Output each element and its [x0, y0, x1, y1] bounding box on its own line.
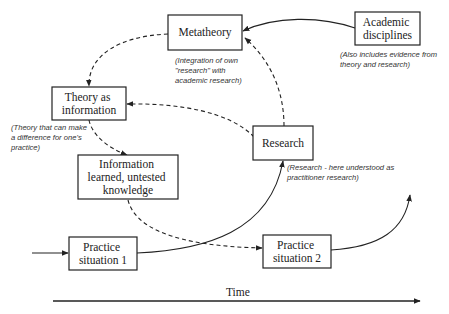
metatheory-label: Metatheory: [178, 26, 231, 39]
edge-metatheory-to-theory: [89, 34, 168, 86]
practice-situation-1-label: Practice situation 1: [79, 241, 127, 266]
practice-situation-1-box: Practice situation 1: [69, 237, 137, 270]
practice-situation-2-box: Practice situation 2: [263, 235, 331, 268]
edge-academic-to-metatheory: [243, 19, 355, 31]
academic-disciplines-note: (Also includes evidence from theory and …: [340, 50, 439, 69]
metatheory-box: Metatheory: [168, 15, 242, 50]
metatheory-note: (Integration of own "research" with acad…: [175, 56, 242, 85]
theory-as-information-label: Theory as information: [62, 91, 117, 116]
time-axis-label: Time: [226, 286, 250, 298]
edge-research-to-theory: [127, 104, 254, 137]
edge-practice2-to-continuation: [331, 195, 410, 250]
research-box: Research: [253, 126, 313, 160]
research-label: Research: [262, 137, 304, 149]
academic-disciplines-label: Academic disciplines: [363, 16, 413, 42]
information-learned-box: Information learned, untested knowledge: [78, 155, 178, 199]
edge-research-to-metatheory: [245, 38, 284, 126]
edge-theory-to-information: [89, 120, 127, 155]
theory-note: (Theory that can make a difference for o…: [10, 123, 89, 152]
diagram-canvas: Time Metatheory Academic disciplines The…: [0, 0, 449, 314]
academic-disciplines-box: Academic disciplines: [355, 12, 420, 45]
edge-information-to-practice2: [128, 200, 262, 248]
theory-as-information-box: Theory as information: [52, 87, 126, 120]
practice-situation-2-label: Practice situation 2: [273, 239, 321, 264]
research-note: (Research - here understood as practitio…: [286, 163, 396, 182]
